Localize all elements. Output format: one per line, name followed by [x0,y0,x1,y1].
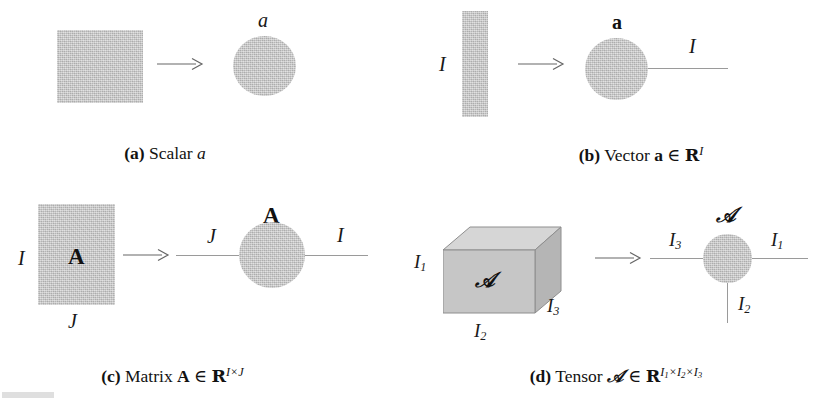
caption-b-member: ∈ [667,145,680,165]
tensor-edge-down-label-sub: 2 [744,302,750,316]
caption-c-text: Matrix [125,366,173,386]
tensor-node-circle [703,234,752,283]
vector-bar-shape [462,11,488,117]
scalar-node-label: a [258,10,268,30]
caption-c-space: R [211,366,226,386]
transform-arrow-icon [122,244,172,266]
panel-b: I a I (b) Vector a ∈ RI [416,0,832,204]
tensor-edge-left-label: I3 [669,230,681,251]
tensor-cube-inner-label: 𝒜 [475,269,495,290]
tensor-cube-right-label-sub: 3 [553,304,559,318]
caption-a: (a) Scalar a [0,145,330,163]
caption-a-text: Scalar [149,143,193,163]
tensor-edge-left-label-sub: 3 [675,238,681,252]
matrix-edge-left-label: J [207,226,216,246]
scan-artifact [2,392,54,398]
caption-d-member: ∈ [628,366,641,386]
panel-c: I A J A J I (c) Matrix A ∈ RI×J [0,204,416,408]
tensor-node-label: 𝒜 [716,204,736,225]
tensor-cube-bottom-label: I2 [474,321,486,342]
matrix-node-circle [239,222,305,288]
caption-b: (b) Vector a ∈ RI [476,145,806,164]
scalar-square-shape [57,30,143,103]
caption-d-text: Tensor [555,366,602,386]
matrix-rect-bottom-label: J [68,311,77,331]
tensor-cube-right-label: I3 [547,296,559,317]
panel-d: I1 𝒜 I3 I2 𝒜 I3 [416,204,832,408]
caption-d-space: R [646,366,661,386]
caption-a-symbol: a [197,143,206,163]
caption-c-symbol: A [177,366,190,386]
caption-d-sup-x1: × [669,365,677,379]
tensor-edge-down-label: I2 [738,294,750,315]
vector-edge-right-label: I [689,36,696,56]
caption-d-tag: (d) [530,366,551,386]
caption-b-superscript: I [699,144,703,158]
caption-a-tag: (a) [124,143,144,163]
caption-d: (d) Tensor 𝒜 ∈ RI1×I2×I3 [436,366,796,385]
transform-arrow-icon [517,53,567,75]
panel-a: a (a) Scalar a [0,0,416,204]
caption-c: (c) Matrix A ∈ RI×J [0,366,345,385]
caption-c-sup-2: J [238,365,243,379]
matrix-rect-left-label: I [18,248,25,268]
caption-d-sup-x2: × [685,365,693,379]
tensor-cube-left-label: I1 [414,252,426,273]
vector-node-label: a [612,12,622,32]
tensor-cube-bottom-label-sub: 2 [480,329,486,343]
transform-arrow-icon [156,53,206,75]
caption-b-space: R [685,145,700,165]
caption-d-sup-s3: 3 [698,370,702,380]
tensor-edge-right-label: I1 [771,230,783,251]
matrix-rect-inner-label: A [68,245,85,268]
tensor-cube-left-label-sub: 1 [420,260,426,274]
tensor-edge-right-label-sub: 1 [777,238,783,252]
caption-b-tag: (b) [579,145,600,165]
caption-b-symbol: a [654,145,663,165]
caption-d-symbol: 𝒜 [607,366,624,386]
caption-b-text: Vector [604,145,650,165]
transform-arrow-icon [594,247,644,269]
vector-node-circle [585,38,648,100]
scalar-node-circle [233,36,296,96]
figure-canvas: a (a) Scalar a I a I (b) Vect [0,0,832,408]
vector-bar-left-label: I [439,54,446,74]
caption-c-tag: (c) [101,366,120,386]
caption-c-member: ∈ [194,366,207,386]
tensor-cube-shape: 𝒜 [443,222,563,317]
matrix-edge-right-label: I [337,225,344,245]
